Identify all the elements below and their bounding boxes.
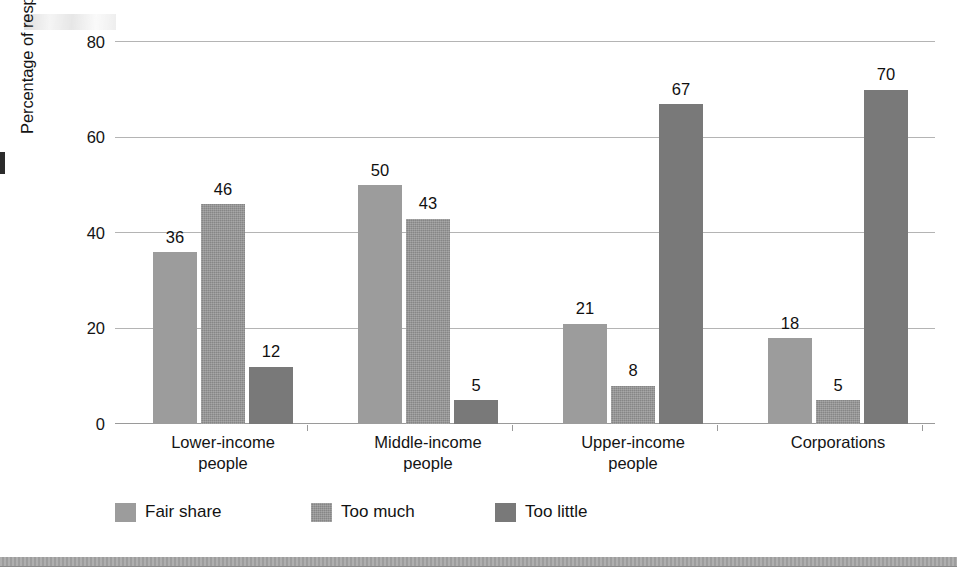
bar-3-2 [864, 90, 908, 424]
y-tick-label-20: 20 [67, 320, 105, 337]
legend-swatch-icon-1 [311, 503, 332, 522]
gridline-60 [115, 137, 935, 138]
bar-1-2 [454, 400, 498, 424]
bar-value-label-1-1: 43 [393, 195, 463, 212]
x-category-label-2-line-0: Upper-income [581, 433, 685, 451]
bar-value-label-1-2: 5 [441, 377, 511, 394]
bar-value-label-0-0: 36 [140, 229, 210, 246]
x-category-label-1-line-1: people [318, 453, 538, 474]
x-category-label-1-line-0: Middle-income [374, 433, 481, 451]
legend-swatch-icon-0 [115, 503, 136, 522]
bar-value-label-2-0: 21 [550, 300, 620, 317]
legend-item-too-much[interactable]: Too much [311, 502, 415, 522]
bar-0-2 [249, 367, 293, 424]
bar-0-1 [201, 204, 245, 424]
legend-label-1: Too much [341, 502, 415, 522]
bar-value-label-0-2: 12 [236, 343, 306, 360]
bar-1-1 [406, 219, 450, 424]
x-tick-1 [512, 425, 513, 431]
x-tick-2 [717, 425, 718, 431]
legend-label-0: Fair share [145, 502, 222, 522]
bar-value-label-2-1: 8 [598, 362, 668, 379]
bar-value-label-0-1: 46 [188, 181, 258, 198]
x-tick-0 [307, 425, 308, 431]
plot-area: 806040200 364612504352186718570 [115, 42, 935, 424]
x-category-label-3-line-0: Corporations [791, 433, 885, 451]
bar-2-2 [659, 104, 703, 424]
bar-2-1 [611, 386, 655, 424]
x-category-label-3: Corporations [728, 432, 948, 453]
legend-item-too-little[interactable]: Too little [495, 502, 587, 522]
y-tick-label-0: 0 [67, 416, 105, 433]
bar-0-0 [153, 252, 197, 424]
legend-item-fair-share[interactable]: Fair share [115, 502, 222, 522]
bar-1-0 [358, 185, 402, 424]
x-category-label-2: Upper-incomepeople [523, 432, 743, 474]
bar-chart-figure: Percentage of respondents 806040200 3646… [0, 0, 957, 570]
x-category-label-0-line-0: Lower-income [171, 433, 275, 451]
legend-label-2: Too little [525, 502, 587, 522]
bar-value-label-2-2: 67 [646, 81, 716, 98]
y-tick-label-80: 80 [67, 34, 105, 51]
bar-value-label-3-2: 70 [851, 66, 921, 83]
page-edge-artifact [0, 152, 5, 174]
bar-value-label-3-0: 18 [755, 315, 825, 332]
bottom-rule-divider [0, 557, 957, 567]
bar-value-label-1-0: 50 [345, 162, 415, 179]
bar-value-label-3-1: 5 [803, 377, 873, 394]
x-category-label-0-line-1: people [113, 453, 333, 474]
gridline-80 [115, 41, 935, 42]
legend-swatch-icon-2 [495, 503, 516, 522]
x-category-label-1: Middle-incomepeople [318, 432, 538, 474]
y-tick-label-60: 60 [67, 129, 105, 146]
x-category-label-2-line-1: people [523, 453, 743, 474]
bar-3-1 [816, 400, 860, 424]
x-tick-3 [922, 425, 923, 431]
y-tick-label-40: 40 [67, 225, 105, 242]
y-axis-title: Percentage of respondents [18, 0, 40, 134]
x-category-label-0: Lower-incomepeople [113, 432, 333, 474]
